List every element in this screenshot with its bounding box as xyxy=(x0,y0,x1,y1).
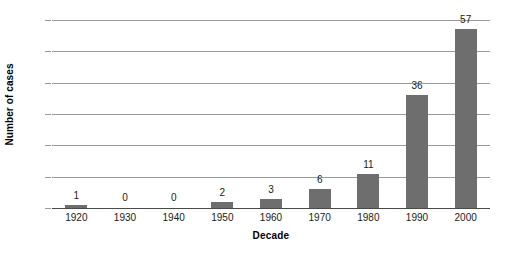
x-axis-tick-label: 1950 xyxy=(198,212,247,224)
x-axis-tick-labels: 192019301940195019601970198019902000 xyxy=(52,212,490,226)
bar-group: 11 xyxy=(344,20,393,208)
y-axis-tick-mark xyxy=(45,145,51,146)
bar-group: 36 xyxy=(393,20,442,208)
bar[interactable] xyxy=(211,202,233,208)
y-axis-tick-mark xyxy=(45,114,51,115)
bar-group: 0 xyxy=(149,20,198,208)
y-axis-tick-mark xyxy=(45,83,51,84)
x-axis-tick-label: 1940 xyxy=(149,212,198,224)
bars-layer: 100236113657 xyxy=(52,20,490,208)
bar-group: 6 xyxy=(295,20,344,208)
x-axis-tick-label: 1930 xyxy=(101,212,150,224)
bar-group: 0 xyxy=(101,20,150,208)
bar-group: 57 xyxy=(441,20,490,208)
bar-group: 3 xyxy=(247,20,296,208)
x-axis-tick-label: 1960 xyxy=(247,212,296,224)
y-axis-title: Number of cases xyxy=(0,0,18,208)
bar-value-label: 2 xyxy=(220,188,226,198)
y-axis-tick-mark xyxy=(45,20,51,21)
y-axis-tick-mark xyxy=(45,51,51,52)
bar[interactable] xyxy=(309,189,331,208)
bar[interactable] xyxy=(406,95,428,208)
bar-group: 1 xyxy=(52,20,101,208)
bar-value-label: 0 xyxy=(122,193,128,203)
bar-group: 2 xyxy=(198,20,247,208)
y-axis-title-label: Number of cases xyxy=(4,63,15,145)
x-axis-tick-label: 1980 xyxy=(344,212,393,224)
x-axis-title: Decade xyxy=(52,230,490,241)
x-axis-tick-label: 1990 xyxy=(393,212,442,224)
bar[interactable] xyxy=(357,174,379,208)
bar-value-label: 6 xyxy=(317,175,323,185)
bar-value-label: 36 xyxy=(411,81,422,91)
bar-value-label: 1 xyxy=(74,191,80,201)
bar-value-label: 57 xyxy=(460,15,471,25)
y-axis-tick-mark xyxy=(45,208,51,209)
bar-value-label: 0 xyxy=(171,193,177,203)
x-axis-tick-label: 1920 xyxy=(52,212,101,224)
bar-value-label: 11 xyxy=(363,160,373,170)
bar[interactable] xyxy=(260,199,282,208)
bar[interactable] xyxy=(65,205,87,208)
bar-chart: Number of cases 0102030405060 1002361136… xyxy=(0,0,509,253)
x-axis-line xyxy=(52,208,490,209)
bar-value-label: 3 xyxy=(268,185,274,195)
x-axis-tick-label: 2000 xyxy=(441,212,490,224)
x-axis-tick-label: 1970 xyxy=(295,212,344,224)
y-axis-tick-mark xyxy=(45,177,51,178)
bar[interactable] xyxy=(455,29,477,208)
